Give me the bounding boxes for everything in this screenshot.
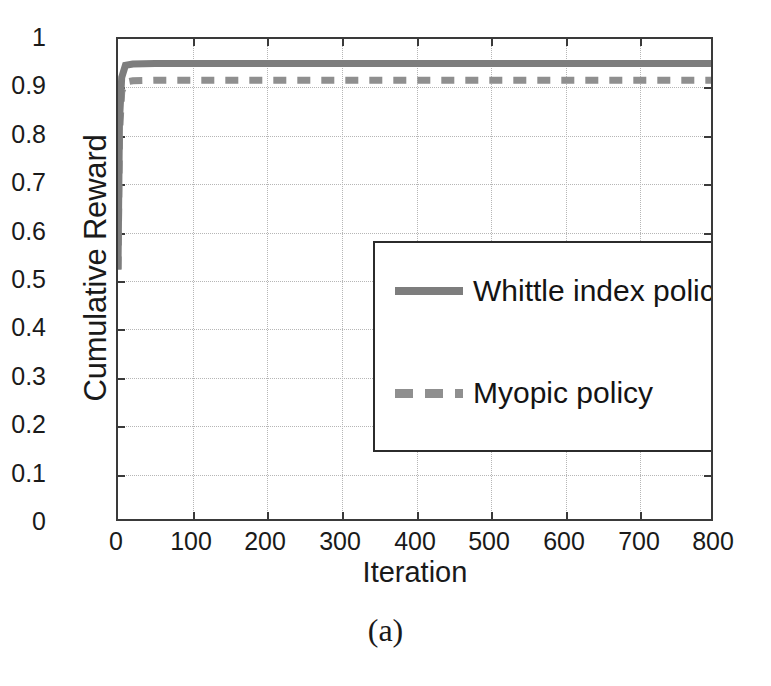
- series-line-whittle: [118, 63, 711, 269]
- y-axis-label: Cumulative Reward: [78, 78, 114, 458]
- legend-swatch-dashed-icon: [393, 373, 467, 413]
- legend-label: Whittle index policy: [473, 274, 713, 308]
- figure-caption: (a): [0, 612, 771, 649]
- legend-label: Myopic policy: [473, 376, 653, 410]
- x-axis-label: Iteration: [116, 556, 714, 589]
- x-tick-label: 800: [668, 527, 758, 556]
- y-tick-label: 1: [0, 23, 46, 52]
- legend-entry-whittle: Whittle index policy: [393, 271, 713, 311]
- y-tick-label: 0: [0, 507, 46, 536]
- y-tick-label: 0.1: [0, 459, 46, 488]
- plot-area: Whittle index policy Myopic policy: [116, 37, 713, 521]
- legend-swatch-solid-icon: [393, 271, 467, 311]
- y-tick-label: 0.3: [0, 362, 46, 391]
- y-tick-label: 0.6: [0, 217, 46, 246]
- y-tick-label: 0.8: [0, 120, 46, 149]
- y-tick-label: 0.5: [0, 265, 46, 294]
- legend-entry-myopic: Myopic policy: [393, 373, 653, 413]
- figure-panel: Cumulative Reward 1 0.9 0.8 0.7 0.6 0.5 …: [0, 0, 771, 686]
- y-tick-label: 0.2: [0, 410, 46, 439]
- y-tick-label: 0.7: [0, 168, 46, 197]
- legend-box: Whittle index policy Myopic policy: [373, 241, 713, 452]
- y-tick-label: 0.9: [0, 71, 46, 100]
- y-tick-label: 0.4: [0, 313, 46, 342]
